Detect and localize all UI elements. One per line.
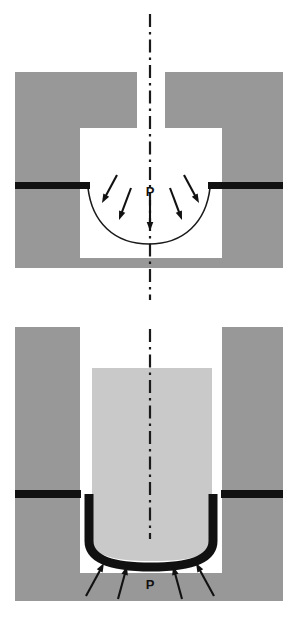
panel-punch-draw-forming: P — [0, 311, 299, 622]
die-block-left — [15, 327, 80, 601]
panel-free-bulge-forming: P — [0, 0, 299, 311]
top-panel-drawing: P — [0, 0, 299, 311]
bottom-panel-drawing: P — [0, 311, 299, 622]
sheet-right-flange — [221, 490, 283, 498]
sheet-left-flange — [15, 182, 90, 189]
sheet-left-flange — [15, 490, 81, 498]
die-block-right — [222, 327, 283, 601]
pressure-label-p: P — [146, 184, 155, 199]
punch-block — [92, 368, 212, 561]
pressure-label-p: P — [146, 577, 155, 592]
sheet-right-flange — [208, 182, 283, 189]
forming-pressure-figure: P P — [0, 0, 299, 622]
